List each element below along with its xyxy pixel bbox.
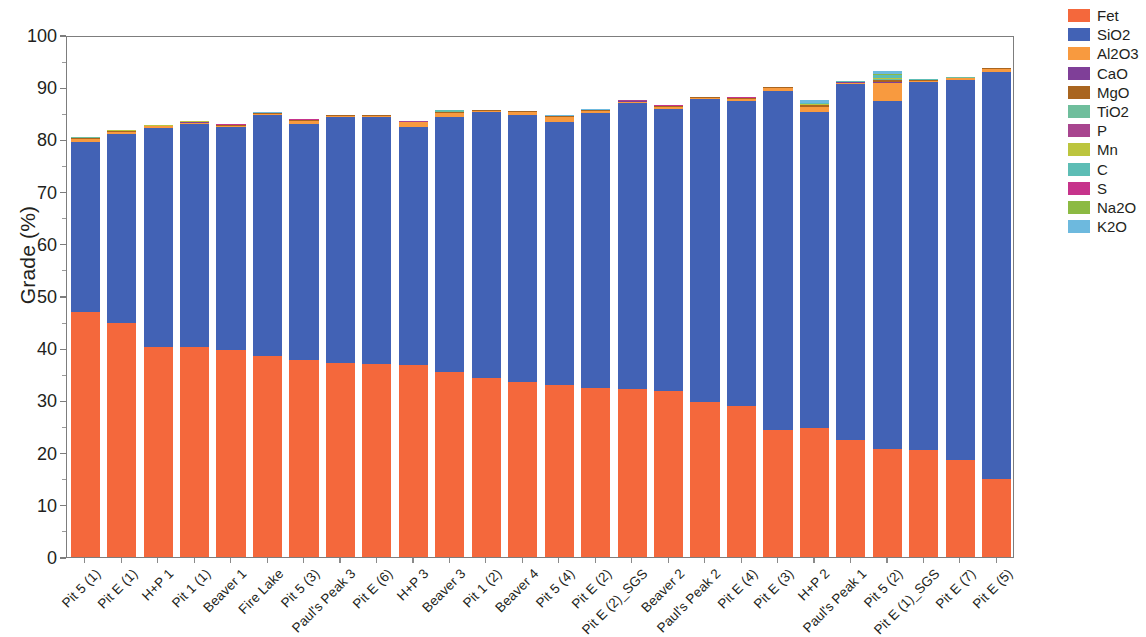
legend-label: K2O [1097, 219, 1127, 234]
legend-item[interactable]: Na2O [1068, 198, 1146, 217]
bar-segment [690, 402, 719, 557]
y-axis-tick-label: 40 [2, 340, 57, 358]
bar-segment [946, 460, 975, 557]
bar-segment [690, 99, 719, 402]
y-axis-tick-label: 20 [2, 445, 57, 463]
bar-segment [216, 350, 245, 557]
x-axis-tick-label: Pit E (6) [350, 566, 396, 612]
bar[interactable] [508, 111, 537, 557]
bar-segment [71, 312, 100, 557]
bar[interactable] [763, 87, 792, 557]
bar[interactable] [144, 125, 173, 557]
legend-item[interactable]: K2O [1068, 217, 1146, 236]
legend-label: Fet [1097, 8, 1119, 23]
bar-segment [107, 134, 136, 323]
bar[interactable] [873, 71, 902, 557]
y-axis-tick-label: 50 [2, 288, 57, 306]
bar-segment [581, 388, 610, 557]
bar[interactable] [289, 119, 318, 557]
bar-segment [545, 385, 574, 557]
bar-segment [144, 128, 173, 347]
bar-segment [618, 103, 647, 389]
bar[interactable] [618, 100, 647, 557]
bar-segment [472, 378, 501, 557]
legend-label: P [1097, 123, 1107, 138]
bar[interactable] [545, 115, 574, 557]
legend-swatch [1068, 220, 1090, 233]
legend-item[interactable]: CaO [1068, 64, 1146, 83]
bar[interactable] [982, 68, 1011, 557]
bar-segment [763, 430, 792, 557]
legend-item[interactable]: S [1068, 179, 1146, 198]
bar-segment [216, 127, 245, 350]
x-axis-tick-mark [522, 558, 523, 563]
bar[interactable] [399, 121, 428, 557]
y-axis-tick-label: 100 [2, 27, 57, 45]
bar-segment [107, 323, 136, 557]
y-axis-tick-label: 70 [2, 184, 57, 202]
bar[interactable] [362, 115, 391, 557]
bar-segment [545, 122, 574, 385]
y-axis-tick-label: 60 [2, 236, 57, 254]
legend-item[interactable]: TiO2 [1068, 102, 1146, 121]
x-axis-tick-mark [996, 558, 997, 563]
bar-segment [982, 72, 1011, 480]
bar[interactable] [71, 137, 100, 557]
bar-segment [435, 117, 464, 372]
bar-segment [362, 364, 391, 557]
bar[interactable] [435, 110, 464, 557]
bar-segment [763, 91, 792, 430]
x-axis-tick-mark [412, 558, 413, 563]
x-axis-tick-label: Pit E (4) [714, 566, 760, 612]
bar[interactable] [107, 130, 136, 557]
bar[interactable] [581, 109, 610, 557]
bar[interactable] [472, 110, 501, 557]
y-axis-tick-label: 10 [2, 497, 57, 515]
bar[interactable] [946, 77, 975, 557]
legend-label: SiO2 [1097, 27, 1130, 42]
legend-item[interactable]: Fet [1068, 6, 1146, 25]
bar-segment [873, 449, 902, 557]
bar-segment [508, 382, 537, 557]
bar[interactable] [800, 100, 829, 557]
bar[interactable] [326, 115, 355, 557]
legend-item[interactable]: Mn [1068, 140, 1146, 159]
bar[interactable] [253, 112, 282, 557]
y-axis-tick-label: 30 [2, 392, 57, 410]
bar[interactable] [690, 97, 719, 557]
legend-item[interactable]: MgO [1068, 83, 1146, 102]
x-axis-tick-mark [959, 558, 960, 563]
bar[interactable] [909, 79, 938, 557]
bar[interactable] [216, 124, 245, 557]
x-axis-tick-mark [485, 558, 486, 563]
x-axis-tick-mark [741, 558, 742, 563]
x-axis-tick-mark [850, 558, 851, 563]
legend-label: Al2O3 [1097, 46, 1139, 61]
x-axis-tick-mark [886, 558, 887, 563]
legend-item[interactable]: C [1068, 160, 1146, 179]
bar-segment [873, 101, 902, 449]
x-axis-tick-mark [449, 558, 450, 563]
x-axis-tick-mark [121, 558, 122, 563]
bar[interactable] [180, 121, 209, 557]
bar-segment [326, 363, 355, 557]
bars-container [67, 37, 1013, 557]
x-axis-tick-mark [376, 558, 377, 563]
bar-segment [654, 109, 683, 391]
bar[interactable] [727, 97, 756, 557]
bar-segment [727, 406, 756, 557]
legend-item[interactable]: SiO2 [1068, 25, 1146, 44]
bar-segment [618, 389, 647, 557]
legend-swatch [1068, 182, 1090, 195]
bar[interactable] [836, 81, 865, 557]
legend-item[interactable]: P [1068, 121, 1146, 140]
bar-segment [909, 82, 938, 450]
bar-segment [982, 479, 1011, 557]
x-axis-tick-mark [157, 558, 158, 563]
legend-item[interactable]: Al2O3 [1068, 44, 1146, 63]
bar-segment [435, 372, 464, 557]
bar[interactable] [654, 105, 683, 557]
bar-segment [472, 112, 501, 378]
x-axis-tick-mark [668, 558, 669, 563]
